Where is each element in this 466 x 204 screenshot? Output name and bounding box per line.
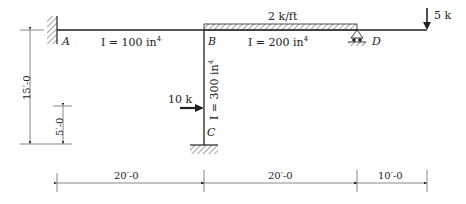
fixed-support-a-icon xyxy=(47,16,57,44)
roller-support-d-icon xyxy=(348,30,366,46)
joint-label-c: C xyxy=(207,127,215,138)
inertia-label-bc: I = 300 in4 xyxy=(208,60,220,120)
dimension-label-20ft-bd: 20′-0 xyxy=(268,171,293,181)
inertia-label-bd: I = 200 in4 xyxy=(248,36,308,48)
point-load-10k-label: 10 k xyxy=(168,94,192,105)
distributed-load-label: 2 k/ft xyxy=(268,11,297,22)
point-load-5k-label: 5 k xyxy=(434,10,451,21)
dimension-label-10ft: 10′-0 xyxy=(378,171,403,181)
dimension-label-5ft: 5′-0 xyxy=(55,118,65,136)
joint-label-b: B xyxy=(208,36,216,47)
distributed-load-icon xyxy=(204,24,357,30)
inertia-label-ab: I = 100 in4 xyxy=(101,36,161,48)
fixed-support-c-icon xyxy=(190,145,218,154)
point-load-5k-arrow-icon xyxy=(423,8,431,30)
dimension-label-15ft: 15′-0 xyxy=(22,75,32,100)
joint-label-d: D xyxy=(372,36,381,47)
joint-label-a: A xyxy=(62,36,70,47)
dimension-label-20ft-ab: 20′-0 xyxy=(114,171,139,181)
dimension-horizontal xyxy=(57,170,427,192)
